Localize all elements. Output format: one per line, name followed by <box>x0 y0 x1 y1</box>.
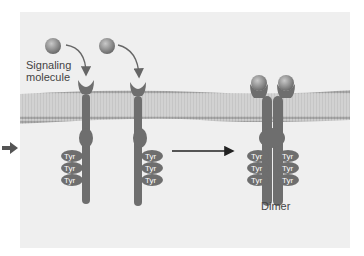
receptor-dimerization-diagram <box>0 0 364 256</box>
tyr-label: Tyr <box>251 163 262 175</box>
tyr-label: Tyr <box>64 163 75 175</box>
tyr-label: Tyr <box>251 175 262 187</box>
signaling-molecule-label-line1: Signaling <box>26 59 71 71</box>
cell-membrane <box>20 90 350 124</box>
tyr-label: Tyr <box>251 151 262 163</box>
tyr-label: Tyr <box>282 175 293 187</box>
tyr-label: Tyr <box>64 175 75 187</box>
incoming-arrow-icon <box>2 142 18 154</box>
tyr-label: Tyr <box>145 151 156 163</box>
signaling-molecule-1 <box>45 38 61 54</box>
tyr-label: Tyr <box>64 151 75 163</box>
tyr-label: Tyr <box>282 151 293 163</box>
tyr-label: Tyr <box>145 175 156 187</box>
dimer-label: Dimer <box>261 200 290 212</box>
binding-arrow-2 <box>118 45 139 76</box>
tyr-label: Tyr <box>282 163 293 175</box>
signaling-molecule-label-line2: molecule <box>26 71 70 83</box>
tyr-label: Tyr <box>145 163 156 175</box>
signaling-molecule-2 <box>99 38 115 54</box>
